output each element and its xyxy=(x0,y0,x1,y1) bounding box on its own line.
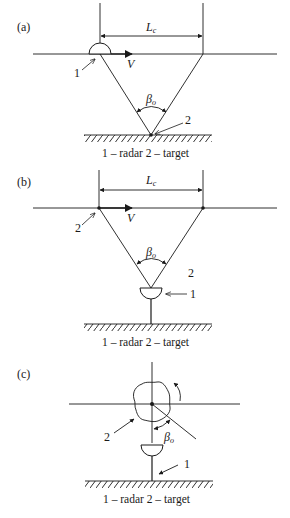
angle-arc xyxy=(137,107,166,113)
beam-line-right xyxy=(151,54,203,135)
panel-c: (c) βo 2 1 1 – radar 2 – target xyxy=(17,362,240,506)
radar-pointer-arrow xyxy=(82,59,95,70)
marker-1: 1 xyxy=(74,66,80,80)
panel-label-c: (c) xyxy=(17,367,30,381)
radar-antenna-icon xyxy=(140,288,162,299)
angle-label: βo xyxy=(145,92,156,107)
aperture-length-label: Lc xyxy=(145,20,157,35)
angle-label: βo xyxy=(163,430,174,445)
target-pointer-arrow xyxy=(155,123,183,134)
radar-antenna-icon xyxy=(89,43,111,54)
marker-2: 2 xyxy=(104,430,110,444)
marker-1: 1 xyxy=(184,457,190,471)
panel-b: (b) Lc V 2 βo 2 1 1 – radar 2 – target xyxy=(17,170,277,349)
target-pointer-arrow xyxy=(82,213,95,225)
ground-hatching xyxy=(85,481,213,488)
beam-line-left xyxy=(100,54,151,135)
target-pointer-arrow xyxy=(114,419,134,433)
panel-label-b: (b) xyxy=(17,175,31,189)
radar-antenna-icon xyxy=(141,445,163,456)
caption-c: 1 – radar 2 – target xyxy=(103,493,191,506)
caption-a: 1 – radar 2 – target xyxy=(102,147,190,160)
caption-b: 1 – radar 2 – target xyxy=(102,336,190,349)
rotation-arrow xyxy=(174,383,180,401)
panel-label-a: (a) xyxy=(17,20,30,34)
aperture-length-label: Lc xyxy=(145,173,157,188)
marker-2: 2 xyxy=(185,113,191,127)
panel-a: (a) Lc V 1 βo 2 1 – radar 2 – target xyxy=(17,3,277,160)
beam-line-left xyxy=(99,208,151,288)
line-of-sight-rotated xyxy=(152,404,196,439)
radar-geometry-diagram: (a) Lc V 1 βo 2 1 – radar 2 – target (b xyxy=(0,0,290,518)
velocity-label: V xyxy=(127,211,136,225)
ground-hatching xyxy=(84,135,212,142)
marker-1: 1 xyxy=(190,287,196,301)
marker-2: 2 xyxy=(75,221,81,235)
beam-line-right xyxy=(151,208,203,288)
marker-2-secondary: 2 xyxy=(188,266,194,280)
radar-pointer-arrow xyxy=(159,465,178,474)
ground-hatching xyxy=(84,324,212,331)
angle-label: βo xyxy=(145,245,156,260)
velocity-label: V xyxy=(127,57,136,71)
